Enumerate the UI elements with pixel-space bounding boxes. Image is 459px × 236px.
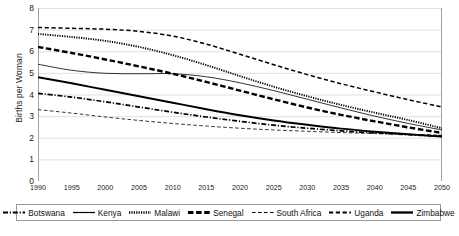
series-line-senegal [38,47,442,133]
y-tick-label: 8 [12,3,34,13]
legend-label: Uganda [354,208,383,218]
legend-swatch-thin-dashed-icon [251,208,275,217]
x-tick-label: 1995 [64,183,80,192]
legend-item-uganda[interactable]: Uganda [328,208,383,218]
legend-item-malawi[interactable]: Malawi [128,208,180,218]
legend-swatch-thin-solid-icon [72,208,96,217]
y-tick-label: 3 [12,111,34,121]
x-axis-ticks: 1990199520002005201020152020202520302035… [0,183,459,197]
legend-item-zimbabwe[interactable]: Zimbabwe [390,208,454,218]
fertility-line-chart: Births per Woman 012345678 1990199520002… [0,0,459,236]
x-tick-label: 2015 [198,183,214,192]
x-tick-label: 2025 [266,183,282,192]
legend-swatch-dotted-icon [128,208,152,217]
legend-item-kenya[interactable]: Kenya [72,208,122,218]
x-tick-label: 2035 [333,183,349,192]
legend-swatch-medium-dashed-icon [328,208,352,217]
plot-area [38,8,442,181]
legend-label: Kenya [98,208,122,218]
x-tick-label: 2010 [165,183,181,192]
y-tick-label: 7 [12,25,34,35]
x-tick-label: 2005 [131,183,147,192]
legend-label: Malawi [154,208,180,218]
legend-item-south-africa[interactable]: South Africa [251,208,322,218]
legend-label: Zimbabwe [416,208,454,218]
y-axis-ticks: 012345678 [10,0,34,236]
x-tick-label: 2000 [97,183,113,192]
legend-item-botswana[interactable]: Botswana [2,208,64,218]
legend-item-senegal[interactable]: Senegal [187,208,243,218]
x-tick-label: 2020 [232,183,248,192]
x-tick-label: 2030 [299,183,315,192]
x-tick-label: 2050 [434,183,450,192]
legend-swatch-thick-solid-icon [390,208,414,217]
series-line-malawi [38,34,442,128]
legend-label: Botswana [28,208,64,218]
chart-legend: BotswanaKenyaMalawiSenegalSouth AfricaUg… [16,204,441,221]
y-tick-label: 4 [12,90,34,100]
y-tick-label: 1 [12,154,34,164]
legend-swatch-thick-dashed-icon [187,208,211,217]
legend-swatch-dash-dot-icon [2,208,26,217]
legend-label: Senegal [213,208,243,218]
y-tick-label: 2 [12,133,34,143]
x-tick-label: 1990 [30,183,46,192]
y-tick-label: 6 [12,46,34,56]
legend-label: South Africa [277,208,322,218]
series-line-kenya [38,64,442,130]
x-tick-label: 2045 [400,183,416,192]
series-line-zimbabwe [38,77,442,136]
y-tick-label: 5 [12,68,34,78]
x-tick-label: 2040 [367,183,383,192]
